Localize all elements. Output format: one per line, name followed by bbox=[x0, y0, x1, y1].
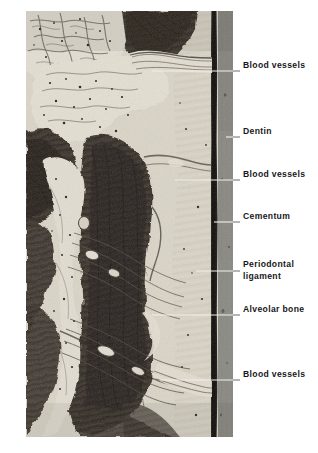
figure-root: Blood vessels Dentin Blood vessels Cemen… bbox=[0, 0, 318, 453]
label-blood-vessels-bottom: Blood vessels bbox=[243, 369, 305, 381]
label-cementum: Cementum bbox=[243, 211, 290, 223]
label-dentin: Dentin bbox=[243, 126, 272, 138]
label-periodontal-ligament: Periodontal ligament bbox=[243, 259, 294, 282]
label-alveolar-bone: Alveolar bone bbox=[243, 304, 304, 316]
label-column: Blood vessels Dentin Blood vessels Cemen… bbox=[233, 0, 318, 453]
micrograph-canvas bbox=[26, 11, 233, 437]
label-blood-vessels-top: Blood vessels bbox=[243, 60, 305, 72]
label-blood-vessels-middle: Blood vessels bbox=[243, 169, 305, 181]
histology-micrograph bbox=[26, 11, 233, 437]
